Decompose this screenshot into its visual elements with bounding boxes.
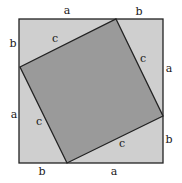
label-top-b: b xyxy=(135,5,142,18)
label-left-b: b xyxy=(9,37,16,50)
label-bottom-b: b xyxy=(38,165,45,178)
label-bottom-a: a xyxy=(111,165,118,178)
label-hyp-left: c xyxy=(36,115,42,128)
label-hyp-right: c xyxy=(140,52,146,65)
label-left-a: a xyxy=(11,108,18,121)
label-top-a: a xyxy=(64,4,71,17)
label-hyp-top: c xyxy=(52,32,58,45)
label-hyp-bottom: c xyxy=(119,137,125,150)
label-right-a: a xyxy=(166,62,173,75)
pythagorean-square-diagram: a b a b b a b a c c c c xyxy=(0,0,182,183)
label-right-b: b xyxy=(165,133,172,146)
